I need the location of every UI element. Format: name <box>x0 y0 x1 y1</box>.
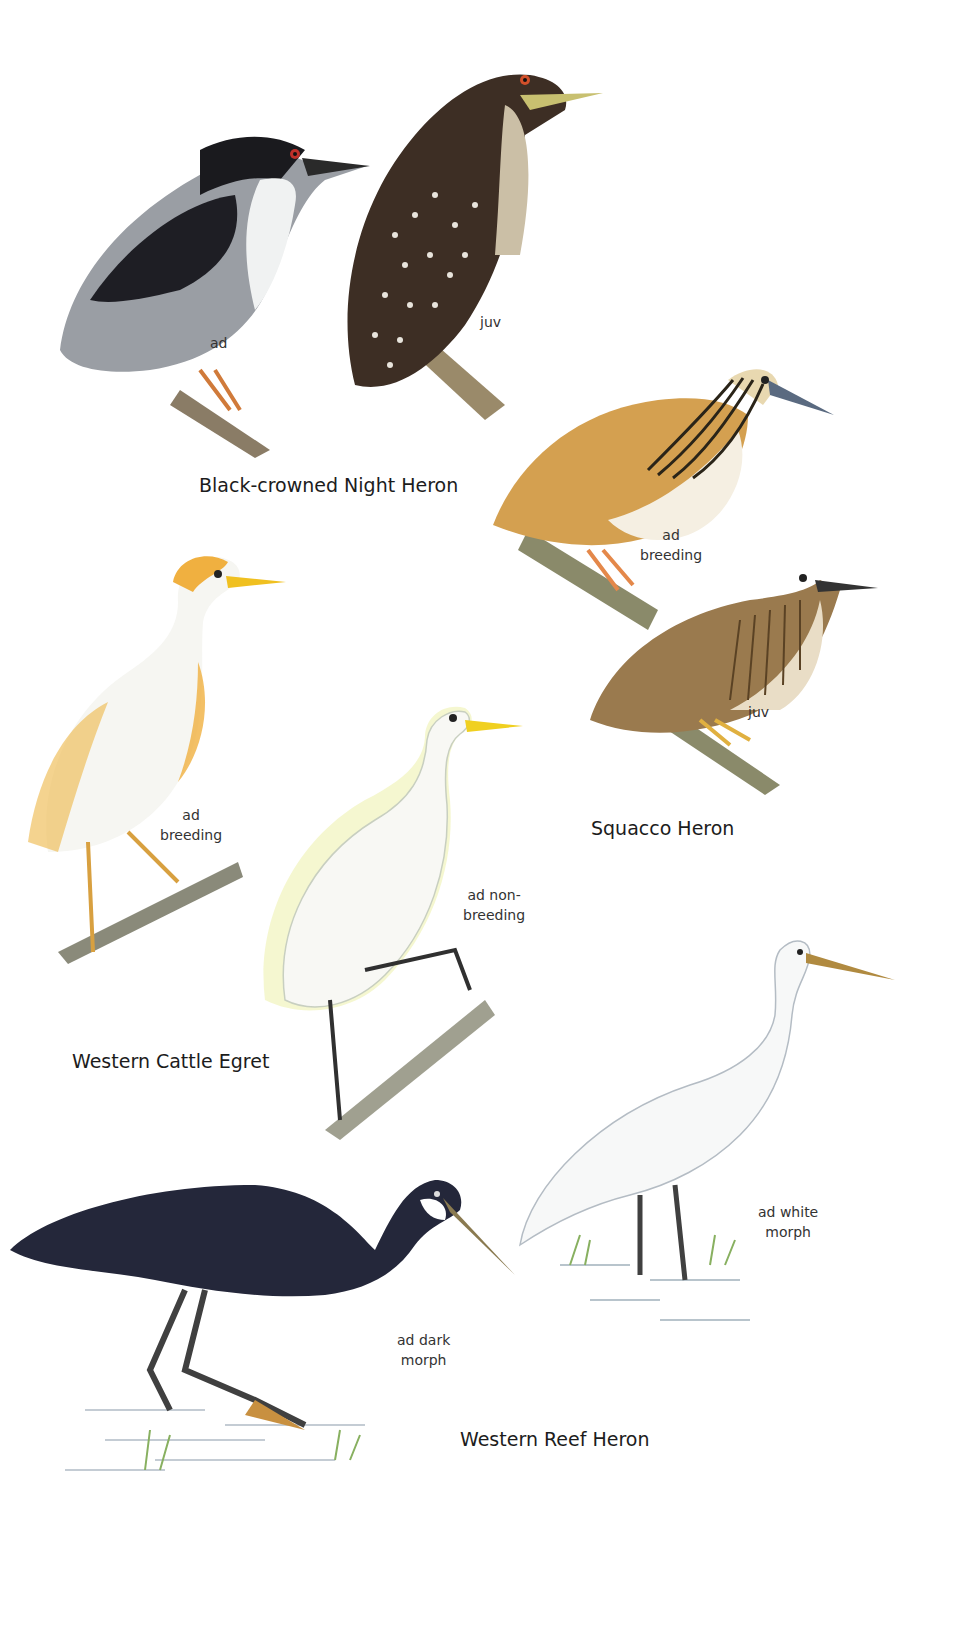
label-line-1: ad <box>160 805 222 825</box>
label-line-2: breeding <box>160 825 222 845</box>
squacco-heron-juvenile-illustration <box>590 560 880 800</box>
label-reef-heron-dark-morph: ad dark morph <box>397 1330 450 1370</box>
label-night-heron-juvenile: juv <box>480 312 501 332</box>
western-cattle-egret-adult-non-breeding-illustration <box>255 700 535 1150</box>
field-guide-plate: ad juv Black-crowned Night Heron <box>0 0 969 1633</box>
label-line-1: ad non- <box>463 885 525 905</box>
label-reef-heron-white-morph: ad white morph <box>758 1202 818 1242</box>
label-line-1: ad white <box>758 1202 818 1222</box>
label-squacco-juvenile: juv <box>748 702 769 722</box>
black-crowned-night-heron-adult-illustration <box>40 120 380 460</box>
label-cattle-egret-adult-non-breeding: ad non- breeding <box>463 885 525 925</box>
label-cattle-egret-adult-breeding: ad breeding <box>160 805 222 845</box>
species-name-western-cattle-egret: Western Cattle Egret <box>72 1050 269 1072</box>
species-name-western-reef-heron: Western Reef Heron <box>460 1428 649 1450</box>
label-line-2: morph <box>397 1350 450 1370</box>
species-name-squacco-heron: Squacco Heron <box>591 817 734 839</box>
western-reef-heron-white-morph-illustration <box>510 935 900 1375</box>
label-line-2: breeding <box>463 905 525 925</box>
label-line-2: morph <box>758 1222 818 1242</box>
label-squacco-adult-breeding: ad breeding <box>640 525 702 565</box>
label-line-1: ad dark <box>397 1330 450 1350</box>
label-night-heron-adult: ad <box>210 333 227 353</box>
label-line-1: ad <box>640 525 702 545</box>
species-name-black-crowned-night-heron: Black-crowned Night Heron <box>199 474 458 496</box>
